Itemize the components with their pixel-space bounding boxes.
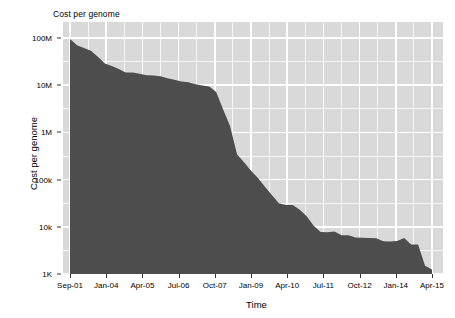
chart-figure: Cost per genome Cost per genome 100M10M1… [0,0,455,318]
x-axis-tick-label: Jul-06 [168,281,190,290]
y-axis-tick-mark [57,274,61,275]
y-axis-tick-label: 10M [36,81,52,90]
y-axis-tick-labels: 100M10M1M100k10k1K [0,0,52,318]
x-axis-tick-mark [360,274,361,278]
x-axis-tick-label: Sep-01 [57,281,83,290]
area-series [63,22,443,274]
x-axis-tick-mark [179,274,180,278]
y-axis-tick-label: 1K [42,270,52,279]
x-axis-tick-label: Oct-07 [203,281,227,290]
y-axis-tick-label: 100M [32,34,52,43]
y-axis-tick-label: 100k [35,175,52,184]
x-axis-tick-mark [287,274,288,278]
x-axis-tick-mark [251,274,252,278]
x-axis-tick-label: Apr-15 [420,281,444,290]
y-axis-tick-mark [57,226,61,227]
y-axis-tick-mark [57,132,61,133]
x-axis-tick-label: Jan-14 [384,281,408,290]
x-axis-tick-mark [70,274,71,278]
x-axis-tick-label: Oct-12 [348,281,372,290]
y-axis-tick-label: 1M [41,128,52,137]
x-axis-tick-mark [215,274,216,278]
x-axis-tick-label: Apr-05 [130,281,154,290]
y-axis-tick-mark [57,38,61,39]
x-axis-title: Time [70,299,443,310]
chart-title: Cost per genome [53,9,120,19]
x-axis-tick-mark [323,274,324,278]
y-axis-tick-mark [57,85,61,86]
x-axis-tick-mark [396,274,397,278]
x-axis-tick-mark [142,274,143,278]
x-axis-tick-label: Jan-09 [239,281,263,290]
x-axis-tick-mark [106,274,107,278]
x-axis-tick-label: Jul-11 [313,281,334,290]
y-axis-tick-mark [57,179,61,180]
x-axis-tick-label: Jan-04 [94,281,118,290]
plot-panel [63,22,443,274]
x-axis-tick-mark [432,274,433,278]
x-axis-tick-label: Apr-10 [275,281,299,290]
y-axis-tick-label: 10k [39,222,52,231]
